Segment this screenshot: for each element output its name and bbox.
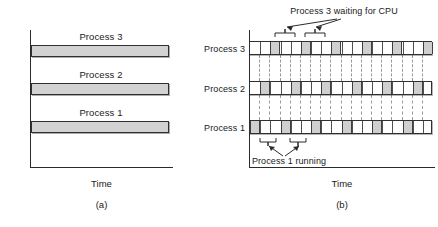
panel-b-axis-title: Time [249,178,435,189]
panel-a-bar-process-2 [31,83,169,95]
panel-b-annotation-bottom: Process 1 running [229,156,349,166]
panel-a-bar-label-process-3: Process 3 [31,31,171,42]
figure-multiprogramming: Process 3 Process 2 Process 1 Time (a) P… [0,0,438,227]
panel-a-axis-title: Time [30,178,173,189]
panel-a-bar-label-process-2: Process 2 [31,69,171,80]
panel-b-brace-bottom-group [219,0,438,227]
brace-bottom-left-icon [260,138,276,146]
panel-a: Process 3 Process 2 Process 1 Time (a) [0,0,219,227]
brace-bottom-right-icon [290,138,306,146]
panel-a-caption: (a) [30,199,173,210]
panel-a-x-axis [30,167,173,168]
panel-b: Process 3 Process 2 Process 1 Process 3 … [219,0,438,227]
panel-a-bar-label-process-1: Process 1 [31,107,171,118]
panel-a-bar-process-3 [31,45,169,57]
panel-b-caption: (b) [249,199,435,210]
panel-a-bar-process-1 [31,121,169,133]
